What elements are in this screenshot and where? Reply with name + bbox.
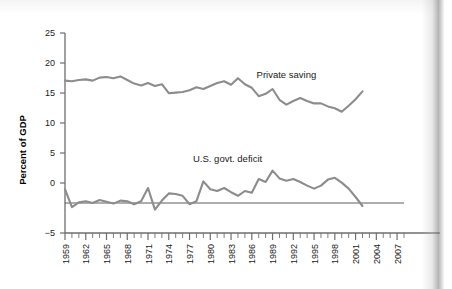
y-tick-label-10: 10 (45, 118, 55, 128)
x-tick-label-2001: 2001 (351, 244, 361, 264)
x-tick-label-1971: 1971 (144, 244, 154, 264)
series-label-private-saving: Private saving (257, 69, 317, 80)
y-axis-title: Percent of GDP (17, 114, 28, 184)
x-tick-label-1986: 1986 (247, 244, 257, 264)
savings-deficit-line-chart: 25 20 15 10 5 0 −5 Percent of GDP 195919… (0, 0, 452, 289)
y-tick-label-25: 25 (45, 28, 55, 38)
y-tick-label-15: 15 (45, 88, 55, 98)
x-tick-label-2004: 2004 (372, 244, 382, 264)
y-tick-label-5: 5 (50, 148, 55, 158)
x-tick-label-1983: 1983 (227, 244, 237, 264)
x-tick-label-2007: 2007 (393, 244, 403, 264)
x-tick-label-1959: 1959 (61, 244, 71, 264)
y-tick-label-0: 0 (50, 178, 55, 188)
x-tick-label-1962: 1962 (81, 244, 91, 264)
series-label-govt-deficit: U.S. govt. deficit (193, 153, 263, 164)
scanned-figure-page: 25 20 15 10 5 0 −5 Percent of GDP 195919… (0, 0, 452, 289)
x-tick-label-1980: 1980 (206, 244, 216, 264)
x-tick-label-1989: 1989 (268, 244, 278, 264)
x-tick-label-1977: 1977 (185, 244, 195, 264)
y-tick-label-minus5: −5 (45, 228, 55, 238)
x-tick-label-1995: 1995 (310, 244, 320, 264)
x-tick-label-1974: 1974 (164, 244, 174, 264)
y-tick-label-20: 20 (45, 58, 55, 68)
x-tick-label-1992: 1992 (289, 244, 299, 264)
x-tick-label-1968: 1968 (123, 244, 133, 264)
x-tick-label-1965: 1965 (102, 244, 112, 264)
x-axis-tick-labels: 1959196219651968197119741977198019831986… (61, 244, 403, 264)
x-tick-label-1998: 1998 (330, 244, 340, 264)
